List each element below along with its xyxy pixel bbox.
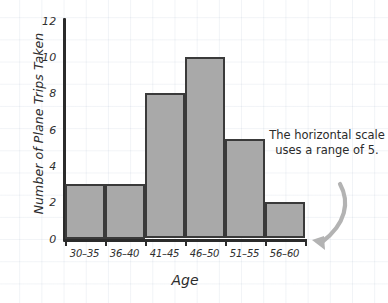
x-axis-tick-label: 36–40 [110, 248, 139, 259]
x-axis-tick-mark [225, 239, 227, 246]
x-axis-tick-mark [145, 239, 147, 246]
x-axis-title: Age [120, 272, 250, 288]
bar [145, 93, 186, 238]
bar [185, 57, 226, 239]
bar [225, 139, 266, 239]
bar [265, 202, 306, 238]
bar [105, 184, 146, 239]
x-axis-tick-mark [185, 239, 187, 246]
y-axis-title: Number of Plane Trips Taken [31, 24, 46, 224]
x-axis-tick-label: 30–35 [70, 248, 99, 259]
annotation-text: The horizontal scale uses a range of 5. [268, 128, 386, 158]
y-axis-tick-label: 0 [33, 232, 57, 245]
x-axis-tick-label: 51–55 [230, 248, 259, 259]
x-axis-tick-label: 41–45 [150, 248, 179, 259]
bar [65, 184, 106, 239]
x-axis-tick-mark [265, 239, 267, 246]
x-axis-tick-label: 46–50 [190, 248, 219, 259]
x-axis-tick-mark [65, 239, 67, 246]
x-axis-tick-mark [105, 239, 107, 246]
histogram-chart: 024681012 30–3536–4041–4546–5051–5556–60… [0, 0, 388, 303]
x-axis-tick-label: 56–60 [270, 248, 299, 259]
